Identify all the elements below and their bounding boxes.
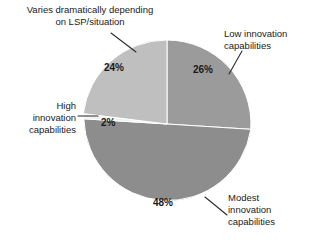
- callout-label-high-innovation: High innovation capabilities: [2, 100, 76, 136]
- callout-label-varies: Varies dramatically depending on LSP/sit…: [14, 4, 166, 28]
- callout-label-modest-innovation: Modest innovation capabilities: [228, 192, 308, 228]
- leader-line-low: [229, 51, 242, 74]
- pie-slice-low-innovation[interactable]: [167, 40, 251, 129]
- slice-value-varies: 24%: [104, 62, 124, 73]
- pie-chart-figure: Varies dramatically depending on LSP/sit…: [0, 0, 311, 242]
- pie-slice-varies[interactable]: [83, 40, 167, 124]
- slice-value-high-innovation: 2%: [101, 117, 115, 128]
- leader-line-varies: [111, 33, 136, 52]
- pie-slice-modest-innovation[interactable]: [84, 119, 251, 201]
- callout-label-low-innovation: Low innovation capabilities: [224, 28, 308, 52]
- leader-line-modest: [205, 197, 227, 215]
- slice-value-low-innovation: 26%: [193, 64, 213, 75]
- slice-value-modest-innovation: 48%: [153, 197, 173, 208]
